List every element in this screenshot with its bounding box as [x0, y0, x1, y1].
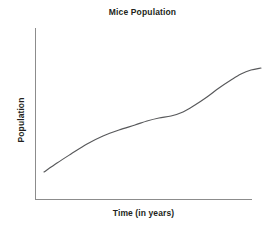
x-axis-label: Time (in years) [35, 208, 252, 219]
chart-title: Mice Population [0, 7, 267, 18]
population-curve-svg [35, 28, 252, 200]
plot-area [35, 28, 252, 200]
y-axis-label: Population [16, 98, 26, 143]
chart-screenshot: Mice Population Time (in years) Populati… [0, 0, 267, 238]
population-curve-path [44, 68, 261, 172]
